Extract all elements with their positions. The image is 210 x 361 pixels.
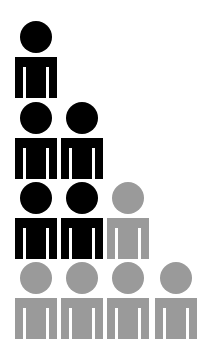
person-body-icon	[107, 298, 149, 339]
arm-gap-right	[138, 228, 141, 259]
arm-gap-right	[92, 308, 95, 339]
person-head-icon	[160, 262, 192, 294]
person-body-icon	[155, 298, 197, 339]
arm-gap-right	[46, 308, 49, 339]
person-body-icon	[107, 218, 149, 259]
arm-gap-right	[46, 228, 49, 259]
arm-gap-right	[92, 148, 95, 179]
person-icon	[15, 262, 57, 340]
person-icon	[15, 102, 57, 180]
person-icon	[107, 182, 149, 260]
person-icon	[61, 102, 103, 180]
person-head-icon	[66, 102, 98, 134]
person-head-icon	[66, 182, 98, 214]
person-head-icon	[20, 21, 52, 53]
arm-gap-left	[69, 148, 72, 179]
arm-gap-left	[23, 67, 26, 98]
arm-gap-left	[69, 308, 72, 339]
person-body-icon	[15, 298, 57, 339]
arm-gap-right	[138, 308, 141, 339]
person-head-icon	[112, 182, 144, 214]
person-body-icon	[61, 138, 103, 179]
pictogram-chart	[0, 0, 210, 361]
arm-gap-left	[23, 228, 26, 259]
person-icon	[61, 262, 103, 340]
person-head-icon	[112, 262, 144, 294]
arm-gap-right	[92, 228, 95, 259]
arm-gap-right	[186, 308, 189, 339]
person-head-icon	[20, 182, 52, 214]
arm-gap-left	[23, 308, 26, 339]
arm-gap-left	[23, 148, 26, 179]
person-head-icon	[66, 262, 98, 294]
person-head-icon	[20, 262, 52, 294]
person-body-icon	[15, 57, 57, 98]
person-body-icon	[61, 218, 103, 259]
person-head-icon	[20, 102, 52, 134]
person-body-icon	[61, 298, 103, 339]
arm-gap-left	[115, 228, 118, 259]
person-icon	[107, 262, 149, 340]
arm-gap-left	[115, 308, 118, 339]
person-icon	[61, 182, 103, 260]
arm-gap-right	[46, 148, 49, 179]
person-body-icon	[15, 218, 57, 259]
person-icon	[15, 182, 57, 260]
arm-gap-left	[69, 228, 72, 259]
person-icon	[15, 21, 57, 99]
person-icon	[155, 262, 197, 340]
arm-gap-right	[46, 67, 49, 98]
arm-gap-left	[163, 308, 166, 339]
person-body-icon	[15, 138, 57, 179]
